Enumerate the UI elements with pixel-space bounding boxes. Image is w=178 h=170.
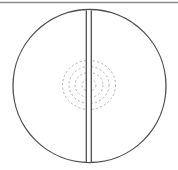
diagram-canvas xyxy=(0,0,178,170)
split-seam-gap xyxy=(87,11,91,163)
figure-svg xyxy=(0,0,178,170)
